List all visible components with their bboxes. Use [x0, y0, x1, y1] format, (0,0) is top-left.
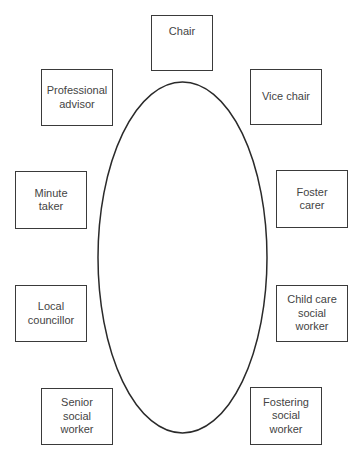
table-ellipse	[98, 82, 267, 433]
seat-label-line: social	[60, 410, 93, 424]
seat-label-line: Fostering	[263, 396, 309, 410]
seat-label-line: worker	[287, 320, 337, 334]
seat-local-councillor: Local councillor	[15, 285, 87, 342]
seat-label-line: Local	[28, 300, 74, 314]
seat-child-care-social-worker: Child care social worker	[276, 285, 348, 342]
seat-label-line: councillor	[28, 314, 74, 328]
seat-label: Chair	[169, 25, 195, 39]
seat-label-line: advisor	[47, 98, 108, 112]
seat-label-line: worker	[263, 423, 309, 437]
seat-professional-advisor: Professional advisor	[41, 69, 113, 126]
seat-label-line: Senior	[60, 396, 93, 410]
seat-label-line: Foster	[296, 186, 327, 200]
seat-label: Vice chair	[262, 90, 310, 104]
seat-foster-carer: Foster carer	[276, 170, 348, 228]
seat-minute-taker: Minute taker	[15, 171, 87, 229]
seat-vice-chair: Vice chair	[250, 69, 322, 125]
seat-label-line: taker	[34, 200, 67, 214]
seat-label-line: Child care	[287, 293, 337, 307]
seat-fostering-social-worker: Fostering social worker	[250, 387, 322, 445]
seat-label-line: worker	[60, 423, 93, 437]
seat-senior-social-worker: Senior social worker	[41, 388, 113, 445]
seat-label-line: Minute	[34, 187, 67, 201]
seat-label-line: Professional	[47, 84, 108, 98]
seat-label-line: carer	[296, 199, 327, 213]
seat-label-line: social	[263, 409, 309, 423]
seat-label-line: social	[287, 307, 337, 321]
seat-chair: Chair	[151, 15, 213, 71]
